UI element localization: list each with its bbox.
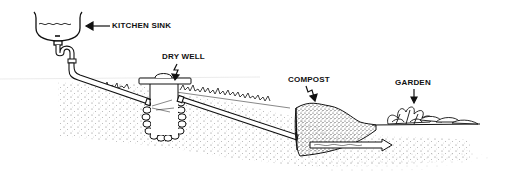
greywater-diagram: KITCHEN SINK DRY WELL COMPOST GARDEN: [0, 0, 507, 175]
label-compost: COMPOST: [288, 76, 330, 84]
dry-well: [139, 74, 191, 142]
garden-plants: [388, 107, 478, 124]
label-dry-well: DRY WELL: [162, 53, 205, 61]
diagram-drawing: [0, 0, 507, 175]
garden-arrow-icon: [411, 89, 417, 103]
kitchen-sink-arrow-icon: [86, 22, 110, 30]
label-kitchen-sink: KITCHEN SINK: [112, 22, 171, 30]
compost-arrow-icon: [306, 86, 317, 101]
kitchen-sink: [34, 12, 82, 63]
horizon-line: [0, 77, 260, 79]
label-garden: GARDEN: [395, 79, 431, 87]
compost-heap: [295, 103, 392, 156]
